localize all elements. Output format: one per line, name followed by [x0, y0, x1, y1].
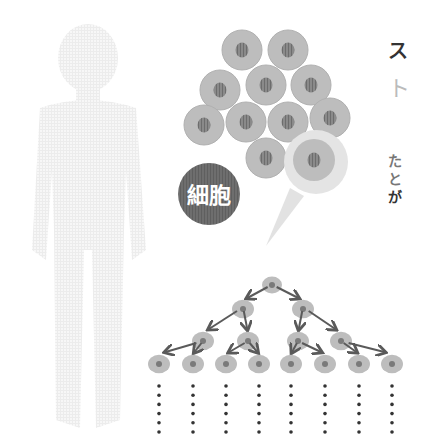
- dividing-cell: [148, 355, 170, 374]
- dividing-cell: [248, 355, 270, 374]
- cell: [184, 105, 224, 145]
- nucleus: [260, 78, 273, 93]
- side-text-fragment-4: と: [388, 168, 402, 188]
- dividing-cell: [262, 277, 282, 294]
- human-silhouette: [32, 24, 146, 428]
- nucleus: [322, 361, 328, 367]
- continuation-dots: [157, 384, 161, 434]
- side-text-fragment-3: た: [388, 150, 402, 170]
- nucleus: [300, 306, 306, 312]
- side-text-fragment-1: ス: [388, 35, 408, 64]
- continuation-dots: [289, 384, 293, 434]
- cell: [268, 30, 308, 70]
- nucleus: [282, 43, 295, 58]
- nucleus: [356, 361, 362, 367]
- nucleus: [198, 118, 211, 133]
- cell: [226, 102, 266, 142]
- nucleus: [223, 361, 229, 367]
- cell: [246, 65, 286, 105]
- nucleus: [236, 43, 249, 58]
- nucleus: [240, 306, 246, 312]
- continuation-dots: [257, 384, 261, 434]
- dividing-cell: [348, 355, 370, 374]
- continuation-dots: [191, 384, 195, 434]
- division-arrow: [277, 287, 299, 298]
- continuation-dots: [224, 384, 228, 434]
- nucleus: [389, 361, 395, 367]
- division-arrow: [247, 287, 267, 298]
- nucleus: [305, 78, 318, 93]
- nucleus: [324, 111, 337, 126]
- continuation-dots: [323, 384, 327, 434]
- dividing-cell: [314, 355, 336, 374]
- cell: [246, 138, 286, 178]
- nucleus: [260, 151, 273, 166]
- nucleus: [338, 338, 344, 344]
- division-arrow: [209, 311, 237, 329]
- dividing-cell: [182, 355, 204, 374]
- nucleus: [256, 361, 262, 367]
- dividing-cell: [237, 332, 259, 351]
- nucleus: [282, 115, 295, 130]
- dividing-cell: [381, 355, 403, 374]
- side-text-fragment-5: が: [388, 186, 402, 206]
- division-tree: [148, 277, 403, 434]
- cell: [222, 30, 262, 70]
- dividing-cell: [192, 332, 214, 351]
- dividing-cell: [292, 300, 314, 319]
- cell: [200, 70, 240, 110]
- continuation-dots: [390, 384, 394, 434]
- dividing-cell: [287, 332, 309, 351]
- cell-label-text: 細胞: [187, 183, 231, 208]
- dividing-cell: [215, 355, 237, 374]
- nucleus: [269, 282, 275, 288]
- side-text-fragment-2: ト: [388, 70, 410, 102]
- division-arrow: [309, 311, 336, 329]
- nucleus: [214, 83, 227, 98]
- cell-division-diagram: 細胞: [0, 0, 422, 442]
- dividing-cell: [232, 300, 254, 319]
- nucleus: [156, 361, 162, 367]
- division-arrow: [166, 343, 197, 352]
- cell-label-badge: 細胞: [178, 163, 240, 225]
- continuation-dots: [357, 384, 361, 434]
- dividing-cell: [280, 355, 302, 374]
- nucleus: [190, 361, 196, 367]
- nucleus: [240, 115, 253, 130]
- nucleus: [288, 361, 294, 367]
